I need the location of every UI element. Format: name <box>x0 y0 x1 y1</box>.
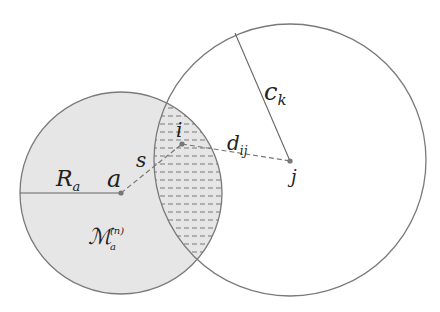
label-i: i <box>176 118 182 142</box>
point-j <box>287 158 292 163</box>
point-i <box>179 141 184 146</box>
circle-intersection-diagram: Ra a s i dij ck j ℳa(n) <box>0 0 440 312</box>
label-s: s <box>136 148 146 172</box>
label-a: a <box>107 165 121 193</box>
